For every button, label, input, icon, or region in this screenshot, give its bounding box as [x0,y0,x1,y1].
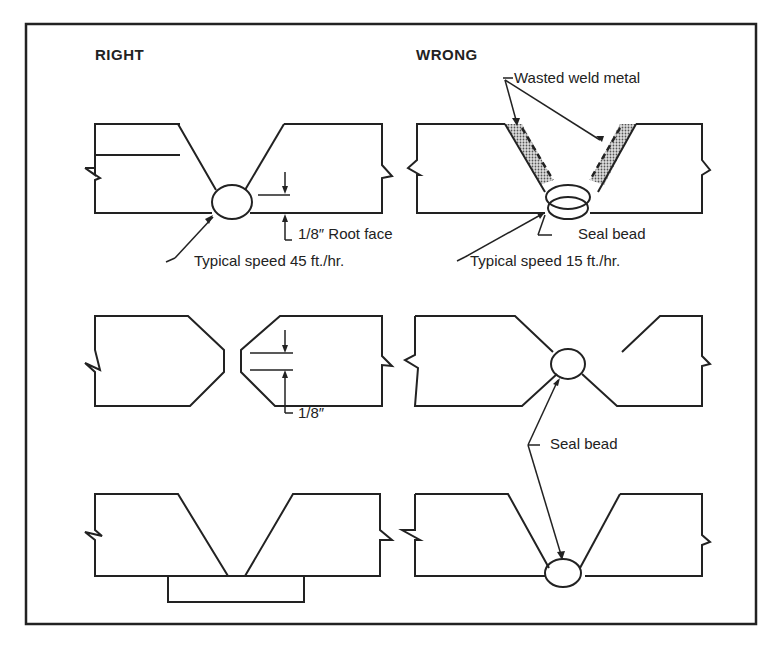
label-seal-bead-wrong: Seal bead [578,226,646,241]
label-seal-bead: Seal bead [550,436,618,451]
plate [85,155,212,213]
header-right: RIGHT [95,47,144,62]
frame-border [26,24,756,624]
label-gap: 1/8″ [298,405,324,420]
weld-joint-diagram [0,0,774,648]
label-wasted-weld-metal: Wasted weld metal [514,70,640,85]
label-typical-speed-right: Typical speed 45 ft./hr. [194,253,344,268]
label-typical-speed-wrong: Typical speed 15 ft./hr. [470,253,620,268]
label-root-face: 1/8″ Root face [298,226,393,241]
header-wrong: WRONG [416,47,478,62]
